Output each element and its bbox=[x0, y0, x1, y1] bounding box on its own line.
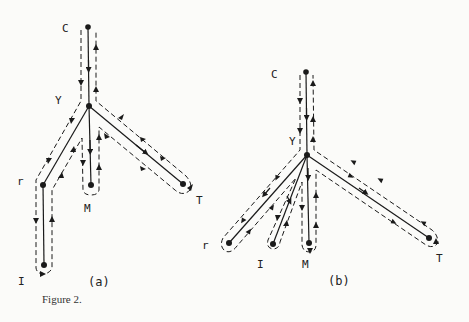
node-label-a-M: M bbox=[84, 203, 91, 214]
node-label-b-M: M bbox=[302, 259, 309, 270]
panel-a-tree-edges bbox=[43, 27, 183, 265]
panel-b-traversal-contour bbox=[221, 75, 438, 252]
node-label-a-r: r bbox=[17, 176, 24, 187]
panel-a-nodes bbox=[40, 24, 186, 268]
tree-traversal-diagram bbox=[0, 0, 469, 322]
node-label-a-I: I bbox=[18, 276, 25, 287]
panel-b-nodes bbox=[226, 69, 432, 247]
panel-b-tree-edges bbox=[229, 72, 429, 244]
figure-2: C Y r I M T (a) C Y r I M T (b) Figure 2… bbox=[0, 0, 469, 322]
panel-b-edge-arrows bbox=[264, 108, 366, 202]
panel-b-diagram bbox=[221, 69, 439, 254]
panel-label-b: (b) bbox=[328, 275, 350, 287]
panel-a-diagram bbox=[33, 24, 193, 277]
node-label-b-I: I bbox=[257, 259, 264, 270]
node-label-a-C: C bbox=[62, 23, 69, 34]
panel-a-traversal-contour bbox=[36, 30, 191, 274]
node-label-a-Y: Y bbox=[55, 95, 62, 106]
node-label-a-T: T bbox=[196, 195, 203, 206]
node-label-b-Y: Y bbox=[289, 136, 296, 147]
panel-label-a: (a) bbox=[88, 276, 110, 288]
node-label-b-r: r bbox=[202, 240, 209, 251]
node-label-b-T: T bbox=[436, 253, 443, 264]
figure-caption: Figure 2. bbox=[42, 294, 82, 305]
node-label-b-C: C bbox=[271, 69, 278, 80]
